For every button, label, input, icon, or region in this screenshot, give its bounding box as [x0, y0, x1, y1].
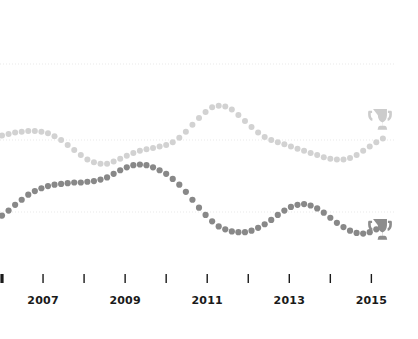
- data-point: [235, 112, 241, 118]
- data-point: [130, 150, 136, 156]
- x-axis-tick: [289, 274, 290, 283]
- data-point: [308, 202, 314, 208]
- data-point: [51, 182, 57, 188]
- x-axis-tick: [165, 274, 166, 283]
- data-point: [314, 205, 320, 211]
- data-point: [281, 141, 287, 147]
- data-point: [5, 207, 11, 213]
- x-axis-label: 2015: [356, 294, 387, 307]
- data-point: [321, 154, 327, 160]
- dual-series-dot-chart: 20072009201120132015: [0, 0, 418, 339]
- data-point: [78, 179, 84, 185]
- data-point: [222, 226, 228, 232]
- x-axis-tick: [207, 274, 208, 283]
- data-point: [137, 161, 143, 167]
- data-point: [32, 128, 38, 134]
- data-point: [360, 148, 366, 154]
- data-point: [216, 223, 222, 229]
- data-point: [137, 148, 143, 154]
- data-point: [65, 180, 71, 186]
- data-point: [97, 177, 103, 183]
- data-point: [229, 228, 235, 234]
- x-axis-tick: [0, 274, 3, 283]
- data-point: [255, 225, 261, 231]
- data-point: [157, 167, 163, 173]
- data-point: [373, 139, 379, 145]
- x-axis-label: 2007: [27, 294, 58, 307]
- data-point: [275, 212, 281, 218]
- x-axis-label: 2013: [274, 294, 305, 307]
- data-point: [25, 128, 31, 134]
- data-point: [235, 229, 241, 235]
- chart-container: 20072009201120132015: [0, 0, 418, 339]
- data-point: [327, 215, 333, 221]
- data-point: [143, 146, 149, 152]
- data-point: [380, 135, 386, 141]
- data-point: [150, 164, 156, 170]
- data-point: [111, 171, 117, 177]
- data-point: [38, 185, 44, 191]
- data-point: [71, 147, 77, 153]
- data-point: [202, 212, 208, 218]
- x-axis-tick: [42, 274, 43, 283]
- data-point: [222, 104, 228, 110]
- data-point: [32, 188, 38, 194]
- data-point: [340, 156, 346, 162]
- data-point: [229, 107, 235, 113]
- data-point: [84, 179, 90, 185]
- data-point: [216, 103, 222, 109]
- data-point: [124, 153, 130, 159]
- data-point: [163, 171, 169, 177]
- data-point: [71, 179, 77, 185]
- data-point: [262, 221, 268, 227]
- data-point: [52, 133, 58, 139]
- data-point: [262, 134, 268, 140]
- data-point: [301, 148, 307, 154]
- data-point: [334, 156, 340, 162]
- data-point: [367, 143, 373, 149]
- data-point: [275, 139, 281, 145]
- data-point: [104, 174, 110, 180]
- data-point: [347, 155, 353, 161]
- chart-background: [0, 0, 418, 339]
- data-point: [308, 150, 314, 156]
- data-point: [242, 229, 248, 235]
- data-point: [19, 129, 25, 135]
- data-point: [288, 204, 294, 210]
- data-point: [196, 115, 202, 121]
- data-point: [150, 145, 156, 151]
- x-axis-tick: [371, 274, 372, 283]
- data-point: [130, 162, 136, 168]
- data-point: [334, 220, 340, 226]
- x-axis-tick: [330, 274, 331, 283]
- data-point: [255, 129, 261, 135]
- data-point: [354, 230, 360, 236]
- data-point: [12, 202, 18, 208]
- data-point: [157, 143, 163, 149]
- data-point: [268, 137, 274, 143]
- data-point: [294, 202, 300, 208]
- data-point: [45, 183, 51, 189]
- data-point: [124, 164, 130, 170]
- data-point: [340, 224, 346, 230]
- data-point: [84, 156, 90, 162]
- data-point: [242, 118, 248, 124]
- data-point: [58, 137, 64, 143]
- data-point: [249, 124, 255, 130]
- data-point: [189, 197, 195, 203]
- data-point: [98, 161, 104, 167]
- data-point: [196, 205, 202, 211]
- data-point: [301, 201, 307, 207]
- data-point: [295, 146, 301, 152]
- data-point: [281, 207, 287, 213]
- data-point: [209, 104, 215, 110]
- data-point: [314, 152, 320, 158]
- x-axis-tick: [248, 274, 249, 283]
- data-point: [12, 129, 18, 135]
- data-point: [111, 159, 117, 165]
- data-point: [176, 182, 182, 188]
- data-point: [91, 178, 97, 184]
- data-point: [347, 228, 353, 234]
- data-point: [203, 109, 209, 115]
- data-point: [183, 189, 189, 195]
